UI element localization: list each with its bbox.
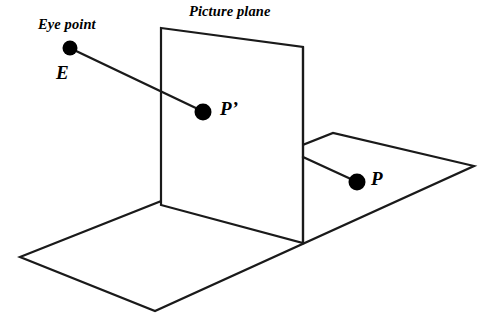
sight-line-plane-to-p (303, 157, 353, 180)
point-e-label: E (56, 63, 69, 82)
perspective-diagram: Eye point Picture plane E P’ P (0, 0, 484, 326)
picture-plane (161, 28, 303, 243)
point-p-prime-label: P’ (220, 99, 238, 118)
picture-plane-label: Picture plane (189, 4, 270, 19)
eye-point-label: Eye point (38, 17, 96, 32)
diagram-canvas (0, 0, 484, 326)
point-p-label: P (371, 169, 383, 188)
eye-point-dot (63, 41, 78, 56)
p-prime-dot (195, 104, 212, 121)
p-dot (349, 174, 366, 191)
